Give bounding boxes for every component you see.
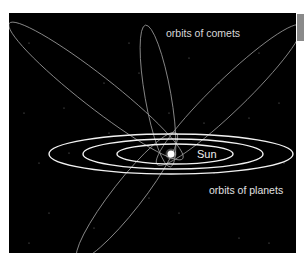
- star-dot: [128, 42, 129, 43]
- comets-label: orbits of comets: [166, 28, 240, 39]
- comet-orbit-vertical: [133, 23, 184, 169]
- star-dot: [178, 212, 179, 213]
- star-dot: [248, 117, 249, 118]
- comet-orbit-upper-left: [9, 13, 193, 171]
- star-dot: [38, 162, 39, 163]
- star-dot: [68, 152, 69, 153]
- side-tab-marker: [297, 14, 304, 41]
- orbit-diagram-svg: [9, 13, 296, 253]
- star-dot: [103, 82, 104, 83]
- sun-icon: [168, 151, 175, 158]
- sun-label: Sun: [197, 149, 217, 160]
- star-dot: [188, 57, 189, 58]
- star-dot: [138, 72, 139, 73]
- star-dot: [28, 242, 29, 243]
- star-dot: [268, 242, 269, 243]
- star-dot: [108, 132, 109, 133]
- star-dot: [168, 112, 169, 113]
- star-dot: [148, 197, 149, 198]
- star-dot: [28, 42, 29, 43]
- star-dot: [23, 112, 24, 113]
- solar-system-diagram: orbits of comets Sun orbits of planets: [9, 13, 296, 253]
- star-dot: [258, 52, 259, 53]
- planets-label: orbits of planets: [209, 185, 283, 196]
- star-dot: [278, 102, 279, 103]
- comet-orbit-lower-left: [66, 124, 188, 253]
- star-dot: [203, 122, 204, 123]
- star-dot: [283, 162, 284, 163]
- star-dot: [63, 107, 64, 108]
- star-dot: [93, 227, 94, 228]
- star-dot: [48, 212, 49, 213]
- star-dot: [238, 237, 239, 238]
